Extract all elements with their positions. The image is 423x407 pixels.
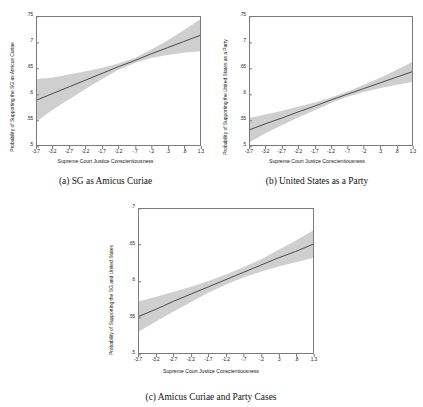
panel-c-y-axis-title: Probability of Supporting the SG and Uni…	[108, 245, 114, 355]
panel-b-y-tick-label: .65	[240, 66, 249, 71]
panel-b-x-tick-label: -2.7	[278, 146, 286, 155]
panel-a-x-tick-label: -1.7	[98, 146, 106, 155]
panel-c-y-tick-label: .7	[131, 206, 138, 211]
panel-b-y-axis-title: Probability of Supporting the United Sta…	[222, 39, 228, 154]
panel-a-y-tick-label: .7	[29, 40, 36, 45]
panel-a-y-axis-title: Probability of Supporting the SG as Amic…	[9, 42, 15, 151]
panel-c-svg	[139, 209, 313, 353]
panel-a-y-tick-label: .75	[27, 14, 36, 19]
panel-a-x-tick-label: -1.2	[115, 146, 123, 155]
panel-c-x-tick-label: -.2	[259, 354, 264, 363]
panel-c-x-tick-label: -3.7	[134, 354, 142, 363]
panel-a-x-tick-label: -3.2	[49, 146, 57, 155]
panel-c-x-axis-title: Supreme Court Justice Conscientiousness	[96, 368, 326, 374]
panel-a-x-tick-label: -2.7	[65, 146, 73, 155]
panel-a-x-axis-title: Supreme Court Justice Conscientiousness	[0, 158, 211, 164]
panel-a-x-tick-label: -2.2	[82, 146, 90, 155]
panel-c-x-tick-label: -.7	[241, 354, 246, 363]
panel-b-x-tick-label: -3.2	[261, 146, 269, 155]
panel-c: Probability of Supporting the SG and Uni…	[96, 196, 326, 404]
panel-c-y-tick-label: .55	[129, 315, 138, 320]
panel-a-x-tick-label: -.2	[149, 146, 154, 155]
panel-b-plot-frame	[249, 16, 413, 146]
panel-a-x-tick-label: .8	[183, 146, 187, 155]
panel-b-x-tick-label: .3	[378, 146, 382, 155]
panel-a-x-tick-label: .3	[166, 146, 170, 155]
panel-b-y-tick-label: .7	[242, 40, 249, 45]
panel-a-caption: (a) SG as Amicus Curiae	[0, 176, 211, 186]
panel-b-x-tick-label: -2.2	[294, 146, 302, 155]
panel-b-x-tick-label: -.7	[345, 146, 350, 155]
panel-a: Probability of Supporting the SG as Amic…	[0, 2, 211, 192]
panel-b-x-tick-label: .8	[395, 146, 399, 155]
panel-c-x-tick-label: -2.2	[187, 354, 195, 363]
panel-b-x-tick-label: -1.2	[327, 146, 335, 155]
panel-b-x-tick-label: -1.7	[311, 146, 319, 155]
panel-a-svg	[37, 17, 200, 145]
panel-c-x-tick-label: .8	[294, 354, 298, 363]
panel-a-y-tick-label: .65	[27, 66, 36, 71]
panel-c-plot-area: .5.55.6.65.7 -3.7-3.2-2.7-2.2-1.7-1.2-.7…	[138, 208, 314, 354]
panel-b-confidence-band	[250, 62, 412, 142]
panel-c-plot-frame	[138, 208, 314, 354]
panel-b-y-tick-label: .55	[240, 118, 249, 123]
figure-three-panel-predicted-probabilities: Probability of Supporting the SG as Amic…	[0, 0, 423, 407]
panel-c-x-tick-label: .3	[277, 354, 281, 363]
panel-b-y-tick-label: .6	[242, 92, 249, 97]
panel-c-x-tick-label: -1.7	[204, 354, 212, 363]
panel-b-x-tick-label: 1.3	[410, 146, 416, 155]
panel-a-y-tick-label: .55	[27, 118, 36, 123]
panel-b-caption: (b) United States as a Party	[211, 176, 423, 186]
panel-b: Probability of Supporting the United Sta…	[211, 2, 423, 192]
panel-c-y-tick-label: .6	[131, 279, 138, 284]
panel-c-confidence-band	[139, 231, 313, 332]
panel-b-x-tick-label: -3.7	[245, 146, 253, 155]
panel-b-plot-area: .5.55.6.65.7.75 -3.7-3.2-2.7-2.2-1.7-1.2…	[249, 16, 413, 146]
panel-c-y-tick-label: .65	[129, 242, 138, 247]
panel-b-y-tick-label: .75	[240, 14, 249, 19]
panel-a-x-tick-label: -.7	[132, 146, 137, 155]
panel-a-x-tick-label: 1.3	[198, 146, 204, 155]
panel-a-y-tick-label: .6	[29, 92, 36, 97]
panel-a-plot-frame	[36, 16, 201, 146]
panel-c-x-tick-label: 1.3	[311, 354, 317, 363]
panel-a-confidence-band	[37, 20, 200, 121]
panel-a-x-tick-label: -3.7	[32, 146, 40, 155]
panel-b-x-axis-title: Supreme Court Justice Conscientiousness	[211, 158, 423, 164]
panel-b-svg	[250, 17, 412, 145]
panel-c-caption: (c) Amicus Curiae and Party Cases	[96, 392, 326, 402]
panel-a-plot-area: .5.55.6.65.7.75 -3.7-3.2-2.7-2.2-1.7-1.2…	[36, 16, 201, 146]
panel-c-x-tick-label: -3.2	[152, 354, 160, 363]
panel-c-x-tick-label: -1.2	[222, 354, 230, 363]
panel-c-x-tick-label: -2.7	[169, 354, 177, 363]
panel-b-x-tick-label: -.2	[361, 146, 366, 155]
